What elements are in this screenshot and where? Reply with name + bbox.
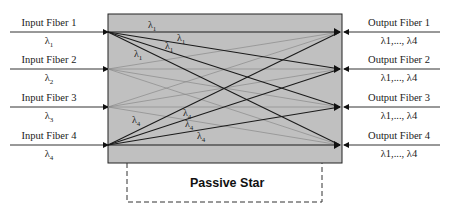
- input-fiber-2-wavelength: λ2: [8, 72, 90, 86]
- inner-lambda1-label: λ1: [134, 48, 142, 62]
- input-fiber-1-label: Input Fiber 1: [8, 17, 90, 28]
- inner-lambda1-label: λ1: [165, 40, 173, 54]
- inner-lambda4-label: λ4: [132, 114, 140, 128]
- inner-lambda1-label: λ1: [177, 32, 185, 46]
- inner-lambda4-label: λ4: [185, 118, 193, 132]
- output-fiber-3-label: Output Fiber 3: [354, 92, 444, 103]
- output-fiber-1-label: Output Fiber 1: [354, 17, 444, 28]
- output-fiber-2-wavelengths: λ1,..., λ4: [354, 72, 444, 83]
- passive-star-title: Passive Star: [190, 176, 264, 190]
- input-fiber-2-label: Input Fiber 2: [8, 54, 90, 65]
- output-fiber-4-wavelengths: λ1,..., λ4: [354, 148, 444, 159]
- lambda-subscript: 3: [50, 116, 54, 124]
- output-fiber-1-wavelengths: λ1,..., λ4: [354, 35, 444, 46]
- inner-lambda1-label: λ1: [148, 19, 156, 33]
- lambda-subscript: 4: [50, 154, 54, 162]
- input-fiber-1-wavelength: λ1: [8, 35, 90, 49]
- lambda-subscript: 2: [50, 78, 54, 86]
- input-fiber-4-wavelength: λ4: [8, 148, 90, 162]
- output-fiber-3-wavelengths: λ1,..., λ4: [354, 110, 444, 121]
- input-fiber-4-label: Input Fiber 4: [8, 130, 90, 141]
- output-fiber-2-label: Output Fiber 2: [354, 54, 444, 65]
- input-fiber-3-wavelength: λ3: [8, 110, 90, 124]
- lambda-subscript: 1: [50, 41, 54, 49]
- input-fiber-3-label: Input Fiber 3: [8, 92, 90, 103]
- output-fiber-4-label: Output Fiber 4: [354, 130, 444, 141]
- inner-lambda4-label: λ4: [197, 130, 205, 144]
